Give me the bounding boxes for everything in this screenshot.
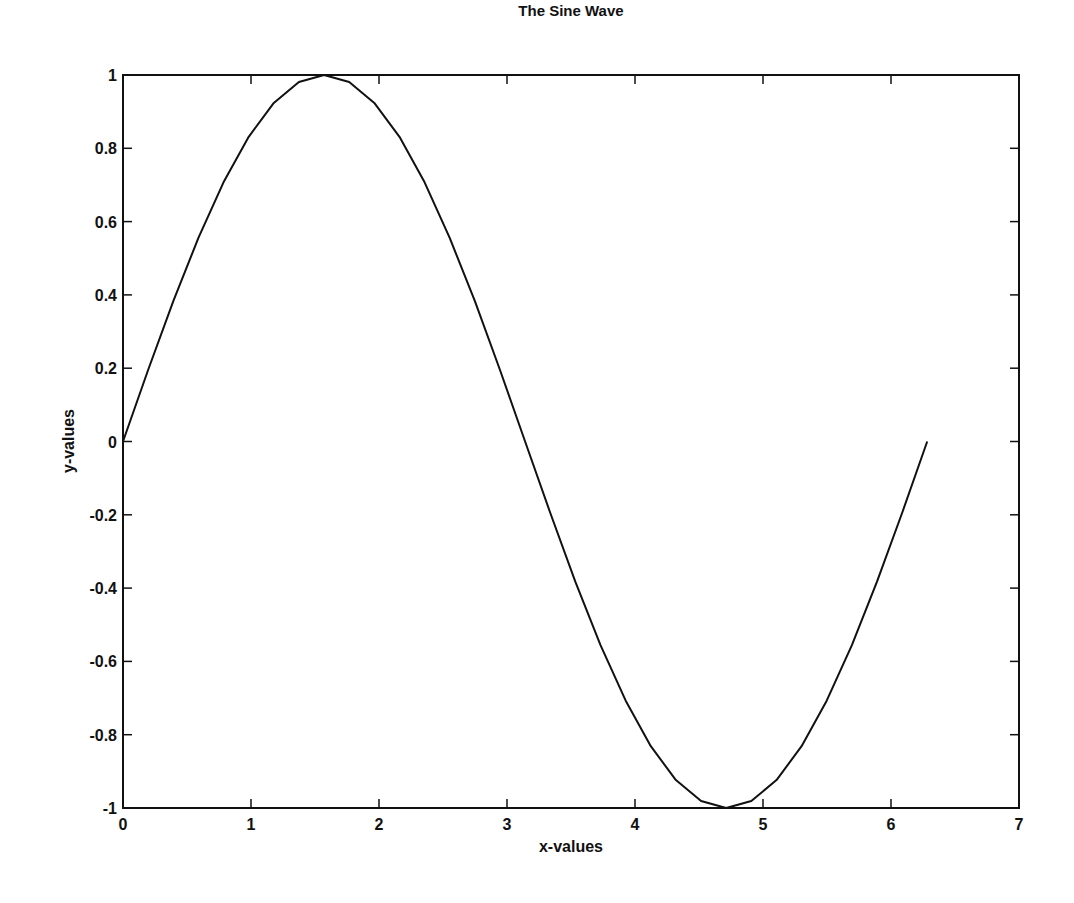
y-tick-label: -0.8 [89, 727, 117, 744]
y-axis-label: y-values [60, 409, 77, 473]
y-tick-label: 0 [108, 434, 117, 451]
y-tick-label: 1 [108, 67, 117, 84]
x-tick-label: 3 [503, 816, 512, 833]
axis-ticks: 01234567-1-0.8-0.6-0.4-0.200.20.40.60.81 [89, 67, 1023, 833]
x-tick-label: 1 [247, 816, 256, 833]
y-tick-label: -0.2 [89, 507, 117, 524]
y-tick-label: 0.2 [95, 360, 117, 377]
x-axis-label: x-values [539, 838, 603, 855]
x-tick-label: 4 [631, 816, 640, 833]
y-tick-label: 0.8 [95, 140, 117, 157]
y-tick-label: -0.4 [89, 580, 117, 597]
x-tick-label: 7 [1015, 816, 1024, 833]
y-tick-label: -1 [103, 800, 117, 817]
y-tick-label: 0.6 [95, 214, 117, 231]
x-tick-label: 0 [119, 816, 128, 833]
y-tick-label: -0.6 [89, 653, 117, 670]
sine-plot: 01234567-1-0.8-0.6-0.4-0.200.20.40.60.81… [0, 0, 1074, 903]
x-tick-label: 6 [887, 816, 896, 833]
sine-curve [123, 75, 927, 808]
plot-area-frame [123, 75, 1019, 808]
x-tick-label: 5 [759, 816, 768, 833]
x-tick-label: 2 [375, 816, 384, 833]
y-tick-label: 0.4 [95, 287, 117, 304]
